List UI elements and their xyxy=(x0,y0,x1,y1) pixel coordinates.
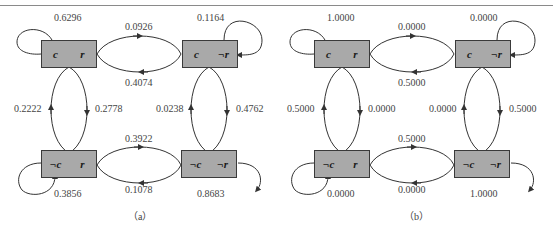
prob-tr-to-br: 0.4762 xyxy=(236,103,264,115)
state-c-r-r: r xyxy=(349,48,363,60)
state-c-notr: c ¬r xyxy=(455,40,511,68)
prob-br-to-bl: 0.1078 xyxy=(125,184,153,196)
prob-tl-to-bl: 0.0000 xyxy=(368,103,396,115)
prob-tr-to-tl: 0.4074 xyxy=(125,77,153,89)
prob-tl-to-tr: 0.0000 xyxy=(398,21,426,33)
state-notc-notr-c: ¬c xyxy=(189,158,203,170)
state-notc-notr-r: ¬r xyxy=(216,158,230,170)
state-c-notr: c ¬r xyxy=(182,40,238,68)
state-notc-notr: ¬c ¬r xyxy=(454,150,510,178)
state-c-notr-r: ¬r xyxy=(490,48,504,60)
caption-b: （b） xyxy=(404,208,429,223)
prob-br-to-tr: 0.0238 xyxy=(156,103,184,115)
prob-br-to-tr: 0.0000 xyxy=(429,103,457,115)
prob-br-self: 1.0000 xyxy=(470,188,498,200)
prob-bl-to-br: 0.5000 xyxy=(398,133,426,145)
prob-tr-self: 0.0000 xyxy=(470,12,498,24)
caption-a: （a） xyxy=(128,208,152,223)
prob-br-to-bl: 0.0000 xyxy=(398,184,426,196)
prob-bl-self: 0.3856 xyxy=(54,188,82,200)
state-notc-r: ¬c r xyxy=(41,150,97,178)
prob-tl-self: 1.0000 xyxy=(327,12,355,24)
prob-tr-self: 0.1164 xyxy=(197,12,224,24)
prob-tl-to-tr: 0.0926 xyxy=(125,21,153,33)
state-notc-r-r: r xyxy=(349,158,363,170)
panel-b: c r c ¬r ¬c r ¬c ¬r 1.0000 0.0000 0.0000… xyxy=(276,0,552,230)
prob-br-self: 0.8683 xyxy=(197,188,225,200)
state-notc-r-c: ¬c xyxy=(322,158,336,170)
prob-bl-to-br: 0.3922 xyxy=(125,133,153,145)
state-c-notr-r: ¬r xyxy=(217,48,231,60)
state-c-notr-c: c xyxy=(190,48,204,60)
prob-bl-to-tl: 0.5000 xyxy=(287,103,315,115)
state-c-r: c r xyxy=(41,40,97,68)
state-notc-notr: ¬c ¬r xyxy=(181,150,237,178)
state-notc-notr-r: ¬r xyxy=(489,158,503,170)
prob-tr-to-br: 0.5000 xyxy=(509,103,537,115)
state-c-r-c: c xyxy=(322,48,336,60)
prob-tl-to-bl: 0.2778 xyxy=(95,103,123,115)
state-notc-r-r: r xyxy=(76,158,90,170)
state-notc-r-c: ¬c xyxy=(49,158,63,170)
state-notc-r: ¬c r xyxy=(314,150,370,178)
prob-bl-to-tl: 0.2222 xyxy=(14,103,42,115)
prob-bl-self: 0.0000 xyxy=(327,188,355,200)
prob-tl-self: 0.6296 xyxy=(54,12,82,24)
state-c-r: c r xyxy=(314,40,370,68)
state-c-notr-c: c xyxy=(463,48,477,60)
state-c-r-c: c xyxy=(49,48,63,60)
prob-tr-to-tl: 0.5000 xyxy=(398,77,426,89)
state-c-r-r: r xyxy=(76,48,90,60)
state-notc-notr-c: ¬c xyxy=(462,158,476,170)
panel-a: c r c ¬r ¬c r ¬c ¬r 0.6296 0.1164 0.0926… xyxy=(0,0,276,230)
